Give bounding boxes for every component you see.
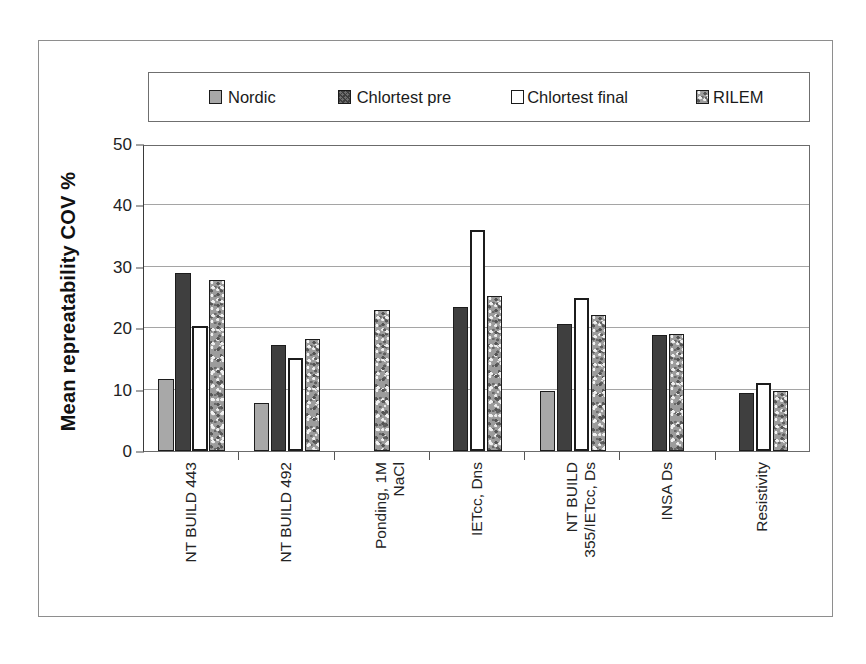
bar-series-layer [144,146,809,451]
bar-rilem-nt-build-355-ietcc-ds [591,315,607,451]
bar-chlortest-pre-insa-ds [652,335,668,451]
bar-rilem-nt-build-492 [305,339,321,451]
bar-chlortest-final-nt-build-443 [192,326,208,451]
x-axis-label-line: IETcc, Dns [468,462,485,536]
bar-nordic-nt-build-492 [254,403,270,451]
x-axis-label-nt-build-492: NT BUILD 492 [277,462,295,602]
bar-group-ietcc-dns [430,146,525,451]
bar-chlortest-final-resistivity [756,383,772,451]
bar-group-nt-build-355-ietcc-ds [525,146,620,451]
y-tick-label: 30 [88,258,132,278]
bar-chlortest-final-ietcc-dns [470,230,486,451]
legend-swatch-rilem [696,90,709,104]
y-axis-title: Mean repreatability COV % [52,148,86,454]
x-tick-mark [334,452,335,460]
legend-label-rilem: RILEM [713,88,763,107]
y-tick-label: 10 [88,381,132,401]
bar-chlortest-pre-nt-build-492 [271,345,287,451]
y-tick-label: 50 [88,135,132,155]
x-axis-label-line: NT BUILD 492 [277,462,294,563]
legend-label-nordic: Nordic [228,88,276,107]
legend-item-nordic: Nordic [209,88,276,107]
y-axis-title-text: Mean repreatability COV % [58,171,81,431]
x-axis-label-line: 355/IETcc, Ds [581,462,599,602]
plot-area [143,145,810,452]
bar-rilem-resistivity [773,391,789,451]
legend-item-rilem: RILEM [696,88,763,107]
bar-rilem-nt-build-443 [209,280,225,451]
bar-group-nt-build-492 [239,146,334,451]
bar-group-resistivity [716,146,811,451]
x-axis-label-nt-build-355-ietcc-ds: NT BUILD355/IETcc, Ds [563,462,599,602]
x-axis-label-insa-ds: INSA Ds [658,462,676,602]
x-axis-label-line: Resistivity [753,462,770,532]
bar-group-nt-build-443 [144,146,239,451]
x-axis-label-line: NT BUILD 443 [182,462,199,563]
x-axis-label-line: NT BUILD [563,462,580,532]
legend-label-chlortest-pre: Chlortest pre [357,88,451,107]
bar-group-insa-ds [620,146,715,451]
bar-rilem-ietcc-dns [487,296,503,451]
x-tick-mark [524,452,525,460]
legend-swatch-chlortest-pre [338,90,351,104]
y-tick-label: 40 [88,196,132,216]
bar-group-ponding-1m-nacl [335,146,430,451]
bar-chlortest-pre-nt-build-355-ietcc-ds [557,324,573,451]
x-axis-label-nt-build-443: NT BUILD 443 [182,462,200,602]
bar-nordic-nt-build-355-ietcc-ds [540,391,556,451]
bar-chlortest-final-nt-build-492 [288,358,304,451]
x-axis-label-line: NaCl [390,462,408,602]
y-tick-label: 20 [88,319,132,339]
x-axis-label-ietcc-dns: IETcc, Dns [468,462,486,602]
bar-chlortest-pre-ietcc-dns [453,307,469,451]
x-axis-label-line: INSA Ds [658,462,675,521]
bar-rilem-ponding-1m-nacl [374,310,390,451]
x-tick-mark [238,452,239,460]
legend-swatch-chlortest-final [511,90,524,104]
legend-swatch-nordic [209,90,222,104]
x-tick-mark [429,452,430,460]
x-axis-label-resistivity: Resistivity [753,462,771,602]
figure-page: Nordic Chlortest pre Chlortest final RIL… [0,0,866,664]
x-tick-mark [619,452,620,460]
x-axis-label-ponding-1m-nacl: Ponding, 1MNaCl [372,462,408,602]
bar-chlortest-final-nt-build-355-ietcc-ds [574,298,590,452]
y-tick-label: 0 [88,442,132,462]
bar-rilem-insa-ds [669,334,685,451]
legend-item-chlortest-final: Chlortest final [511,88,628,107]
chart-legend: Nordic Chlortest pre Chlortest final RIL… [148,72,810,122]
legend-item-chlortest-pre: Chlortest pre [338,88,451,107]
bar-chlortest-pre-nt-build-443 [175,273,191,451]
bar-chlortest-pre-resistivity [739,393,755,451]
x-axis-label-line: Ponding, 1M [372,462,389,549]
bar-nordic-nt-build-443 [158,379,174,451]
x-axis-labels: NT BUILD 443NT BUILD 492Ponding, 1MNaClI… [143,462,810,602]
x-tick-mark [715,452,716,460]
legend-label-chlortest-final: Chlortest final [527,88,628,107]
